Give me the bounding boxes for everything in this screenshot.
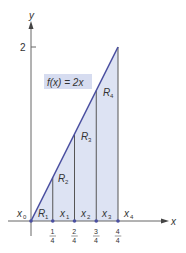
y-axis-arrow-icon [29, 21, 34, 29]
partition-dot-2 [73, 219, 77, 223]
x-axis-arrow-icon [161, 219, 169, 224]
riemann-diagram: f(x) = 2x y x 2 R 1 R 2 R 3 R 4 x 0 x 1 … [0, 0, 186, 253]
x-tick-label-1-4: 1 4 [50, 228, 57, 244]
x-axis-label: x [170, 216, 177, 227]
svg-text:4: 4 [116, 228, 120, 235]
partition-dot-0 [29, 219, 33, 223]
partition-dot-3 [94, 219, 98, 223]
x-tick-label-4-4: 4 4 [115, 228, 122, 244]
svg-text:3: 3 [94, 228, 98, 235]
svg-text:2: 2 [72, 228, 76, 235]
x-tick-label-2-4: 2 4 [71, 228, 78, 244]
svg-text:0: 0 [23, 214, 27, 220]
partition-dot-4 [116, 219, 120, 223]
svg-text:x: x [59, 208, 66, 219]
svg-text:4: 4 [116, 237, 120, 244]
svg-text:1: 1 [51, 228, 55, 235]
svg-text:x: x [123, 208, 130, 219]
x-tick-label-3-4: 3 4 [93, 228, 100, 244]
svg-text:x: x [101, 208, 108, 219]
partition-dot-1 [51, 219, 55, 223]
svg-text:4: 4 [51, 237, 55, 244]
svg-text:x: x [16, 208, 23, 219]
y-axis-label: y [28, 10, 35, 21]
svg-text:4: 4 [94, 237, 98, 244]
y-tick-label-2: 2 [20, 42, 26, 53]
svg-text:4: 4 [130, 214, 134, 220]
function-label: f(x) = 2x [47, 77, 84, 88]
point-label-x0: x 0 [16, 208, 27, 220]
point-label-x4: x 4 [123, 208, 134, 220]
svg-text:4: 4 [72, 237, 76, 244]
svg-text:x: x [80, 208, 87, 219]
